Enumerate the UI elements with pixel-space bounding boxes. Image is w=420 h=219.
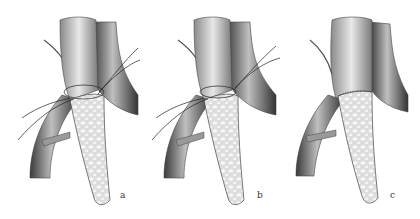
vessel-anastomosis-drawing	[140, 0, 280, 219]
panel-label: c	[390, 190, 395, 200]
panel-b: b	[140, 0, 280, 219]
panel-label: a	[120, 190, 125, 200]
panel-a: a	[0, 0, 140, 219]
vessel-anastomosis-drawing	[0, 0, 140, 219]
vessel-anastomosis-drawing	[280, 0, 420, 219]
surgical-illustration: a b c	[0, 0, 420, 219]
panel-c: c	[280, 0, 420, 219]
panel-label: b	[257, 190, 263, 200]
